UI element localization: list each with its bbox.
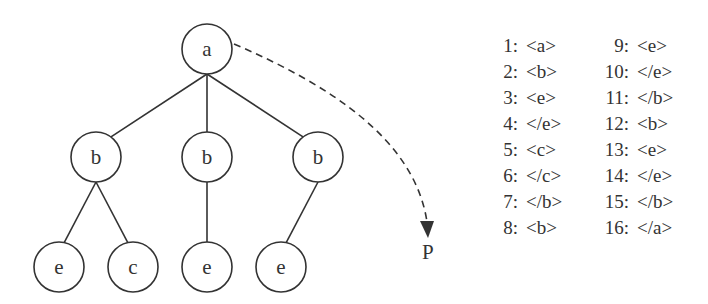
listing-row: 6:</c> <box>468 163 562 189</box>
tree-node-b: b <box>293 132 343 182</box>
row-tag: </e> <box>518 111 561 137</box>
row-number: 5: <box>468 137 518 163</box>
listing-row: 8:<b> <box>468 215 562 241</box>
row-number: 9: <box>580 33 629 59</box>
node-label: e <box>54 255 63 279</box>
listing-row: 9:<e> <box>580 33 673 59</box>
row-tag: </b> <box>629 189 673 215</box>
row-tag: <b> <box>518 59 557 85</box>
listing-row: 11:</b> <box>580 85 673 111</box>
row-number: 16: <box>580 215 629 241</box>
row-tag: </e> <box>629 163 672 189</box>
row-number: 12: <box>580 111 629 137</box>
listing-column-2: 9:<e> 10:</e> 11:</b> 12:<b> 13:<e> 14:<… <box>580 33 673 241</box>
node-label: c <box>128 255 137 279</box>
tree-node-e: e <box>34 242 84 292</box>
listing-row: 1:<a> <box>468 33 562 59</box>
row-tag: <b> <box>629 111 668 137</box>
listing-row: 5:<c> <box>468 137 562 163</box>
row-number: 4: <box>468 111 518 137</box>
node-label: b <box>91 145 102 169</box>
row-number: 6: <box>468 163 518 189</box>
tree-nodes: abbbecee <box>34 24 343 292</box>
row-number: 3: <box>468 85 518 111</box>
listing-row: 13:<e> <box>580 137 673 163</box>
listing-row: 15:</b> <box>580 189 673 215</box>
listing-row: 4:</e> <box>468 111 562 137</box>
row-number: 11: <box>580 85 629 111</box>
tree-edge <box>207 74 307 140</box>
row-tag: <a> <box>518 33 556 59</box>
tree-node-e: e <box>182 242 232 292</box>
tree-node-e: e <box>256 242 306 292</box>
node-label: b <box>202 145 213 169</box>
row-tag: <b> <box>518 215 557 241</box>
row-number: 2: <box>468 59 518 85</box>
arrowhead-icon <box>420 221 434 238</box>
row-number: 1: <box>468 33 518 59</box>
listing-row: 7:</b> <box>468 189 562 215</box>
listing-row: 10:</e> <box>580 59 673 85</box>
row-tag: <e> <box>518 85 556 111</box>
row-tag: <e> <box>629 137 667 163</box>
dashed-arrow-arc <box>234 44 427 222</box>
tree-node-c: c <box>108 242 158 292</box>
row-tag: <c> <box>518 137 556 163</box>
row-number: 14: <box>580 163 629 189</box>
tree-edge <box>286 182 318 243</box>
node-label: a <box>202 37 212 61</box>
tree-node-b: b <box>182 132 232 182</box>
row-number: 13: <box>580 137 629 163</box>
row-tag: </c> <box>518 163 561 189</box>
row-number: 15: <box>580 189 629 215</box>
node-label: e <box>202 255 211 279</box>
tree-node-a: a <box>182 24 232 74</box>
row-number: 10: <box>580 59 629 85</box>
tree-node-b: b <box>71 132 121 182</box>
listing-column-1: 1:<a> 2:<b> 3:<e> 4:</e> 5:<c> 6:</c> 7:… <box>468 33 562 241</box>
path-label-p: P <box>422 240 434 264</box>
listing-row: 16:</a> <box>580 215 673 241</box>
row-tag: <e> <box>629 33 667 59</box>
tree-edge <box>107 74 207 140</box>
row-number: 8: <box>468 215 518 241</box>
tree-edge <box>96 182 128 243</box>
tree-edge <box>64 182 96 243</box>
node-label: b <box>313 145 324 169</box>
row-tag: </b> <box>518 189 562 215</box>
row-number: 7: <box>468 189 518 215</box>
row-tag: </a> <box>629 215 672 241</box>
node-label: e <box>276 255 285 279</box>
listing-row: 14:</e> <box>580 163 673 189</box>
listing-row: 2:<b> <box>468 59 562 85</box>
row-tag: </e> <box>629 59 672 85</box>
listing-row: 3:<e> <box>468 85 562 111</box>
listing-row: 12:<b> <box>580 111 673 137</box>
row-tag: </b> <box>629 85 673 111</box>
